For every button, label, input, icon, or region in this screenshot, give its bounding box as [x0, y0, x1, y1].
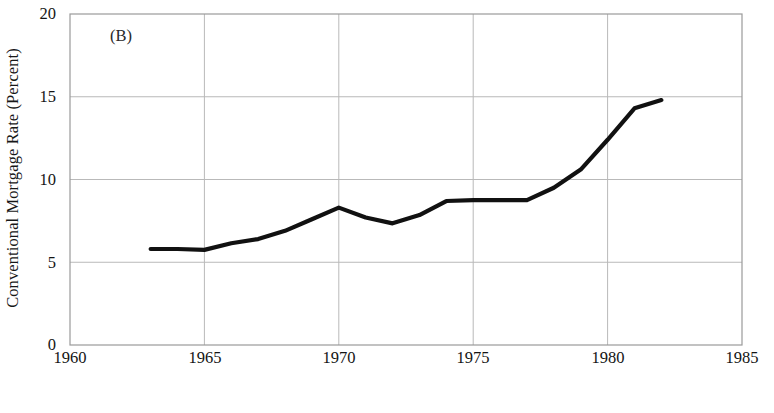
x-tick-label-1970: 1970 — [299, 348, 379, 368]
x-tick-label-1985: 1985 — [702, 348, 774, 368]
y-tick-label-20: 20 — [14, 4, 56, 24]
x-tick-label-1960: 1960 — [30, 348, 110, 368]
data-line — [151, 100, 662, 250]
x-tick-label-1975: 1975 — [433, 348, 513, 368]
panel-label: (B) — [110, 26, 132, 46]
y-tick-label-15: 15 — [14, 87, 56, 107]
y-tick-label-5: 5 — [14, 253, 56, 273]
x-tick-label-1980: 1980 — [568, 348, 648, 368]
grid-lines — [70, 14, 742, 345]
plot-area — [0, 0, 774, 413]
chart-figure: Conventional Mortgage Rate (Percent) (B)… — [0, 0, 774, 413]
x-tick-label-1965: 1965 — [165, 348, 245, 368]
y-tick-label-10: 10 — [14, 170, 56, 190]
